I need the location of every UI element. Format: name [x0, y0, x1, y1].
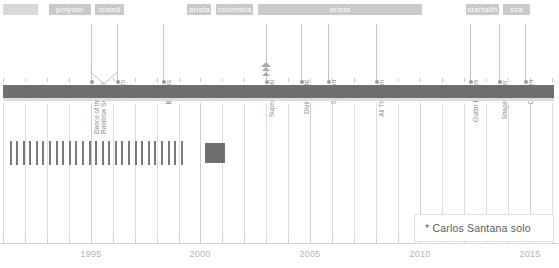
- axis-tick-2009: [398, 238, 399, 243]
- axis-tick-2007: [354, 238, 355, 243]
- axis-label: 2000: [189, 249, 210, 259]
- member-mark: [42, 141, 44, 165]
- record-label-text: starfaith: [467, 4, 497, 15]
- member-mark: [135, 141, 137, 165]
- gridline-1998: [157, 103, 158, 243]
- member-mark: [69, 141, 71, 165]
- member-mark: [75, 141, 77, 165]
- annotation-text: * Carlos Santana solo: [415, 222, 531, 234]
- tick-mark-2000: [200, 78, 201, 82]
- axis-tick-2002: [244, 238, 245, 243]
- tick-mark-2014: [508, 78, 509, 82]
- album-stem: [525, 24, 526, 82]
- record-label-bar-arista: arista: [258, 4, 423, 15]
- tick-mark-1997: [135, 78, 136, 82]
- timeline-band: [3, 85, 554, 98]
- tick-mark-1996: [113, 78, 114, 82]
- member-mark: [154, 141, 156, 165]
- axis-tick-2005: [310, 238, 311, 243]
- gridline-1991: [3, 103, 4, 243]
- member-mark: [141, 141, 143, 165]
- record-label-text: columbia: [218, 4, 252, 15]
- axis-line: [0, 243, 559, 244]
- member-mark: [148, 141, 150, 165]
- tick-mark-2009: [398, 78, 399, 82]
- member-mark: [89, 141, 91, 165]
- gridline-1996: [113, 103, 114, 243]
- member-mark: [128, 141, 130, 165]
- member-mark: [29, 141, 31, 165]
- member-mark: [82, 141, 84, 165]
- pyramid-icon: [258, 62, 274, 78]
- axis-tick-1992: [25, 238, 26, 243]
- axis-label: 2015: [519, 249, 540, 259]
- timeline-band-shadow: [3, 98, 554, 101]
- tick-mark-1992: [25, 78, 26, 82]
- tick-mark-1993: [47, 78, 48, 82]
- axis-tick-2003: [266, 238, 267, 243]
- axis-tick-2006: [332, 238, 333, 243]
- record-label-bar-starfaith: starfaith: [466, 4, 499, 15]
- record-label-text: arista: [329, 4, 350, 15]
- axis-tick-2000: [200, 238, 201, 243]
- axis-tick-2001: [222, 238, 223, 243]
- album-stem: [499, 24, 500, 82]
- member-mark: [168, 141, 170, 165]
- tick-mark-1998: [157, 78, 158, 82]
- member-mark: [56, 141, 58, 165]
- axis-tick-1996: [113, 238, 114, 243]
- tick-mark-2010: [420, 78, 421, 82]
- gridline-2005: [310, 103, 311, 243]
- tick-mark-2001: [222, 78, 223, 82]
- album-stem: [376, 24, 377, 82]
- record-label-text: sca: [510, 4, 523, 15]
- member-mark: [115, 141, 117, 165]
- album-stem: [301, 24, 302, 82]
- member-mark: [174, 141, 176, 165]
- member-mark: [36, 141, 38, 165]
- axis-tick-2008: [376, 238, 377, 243]
- record-label-bar-island: island: [95, 4, 124, 15]
- tick-mark-2012: [464, 78, 465, 82]
- gridline-2004: [288, 103, 289, 243]
- member-mark: [16, 141, 18, 165]
- album-stem: [91, 24, 92, 82]
- record-label-bar-columbia: columbia: [216, 4, 253, 15]
- gridline-2001: [222, 103, 223, 243]
- tick-mark-2005: [310, 78, 311, 82]
- gridline-1999: [179, 103, 180, 243]
- album-stem: [328, 24, 329, 82]
- axis-tick-1999: [179, 238, 180, 243]
- gridline-2008: [376, 103, 377, 243]
- record-label-bar: [3, 4, 38, 15]
- album-stem: [117, 24, 118, 82]
- gridline-1993: [47, 103, 48, 243]
- member-mark: [62, 141, 64, 165]
- gridline-2007: [354, 103, 355, 243]
- axis-label: 2010: [409, 249, 430, 259]
- axis-label: 2005: [299, 249, 320, 259]
- axis-label: 1995: [80, 249, 101, 259]
- axis-tick-1995: [91, 238, 92, 243]
- record-label-text: arista: [189, 4, 210, 15]
- record-label-text: polydor: [56, 4, 84, 15]
- member-block: [205, 143, 225, 163]
- tick-mark-1999: [179, 78, 180, 82]
- member-mark: [49, 141, 51, 165]
- gridline-1992: [25, 103, 26, 243]
- record-label-bar-polydor: polydor: [49, 4, 91, 15]
- tick-mark-2007: [354, 78, 355, 82]
- tick-mark-2016: [552, 78, 553, 82]
- gridline-2003: [266, 103, 267, 243]
- tick-mark-2004: [288, 78, 289, 82]
- axis-tick-1991: [3, 238, 4, 243]
- member-mark: [161, 141, 163, 165]
- gridline-1994: [69, 103, 70, 243]
- member-mark: [95, 141, 97, 165]
- member-mark: [10, 141, 12, 165]
- member-mark: [23, 141, 25, 165]
- record-label-bar-arista: arista: [187, 4, 211, 15]
- axis-tick-1993: [47, 238, 48, 243]
- member-mark: [108, 141, 110, 165]
- gridline-1995: [91, 103, 92, 243]
